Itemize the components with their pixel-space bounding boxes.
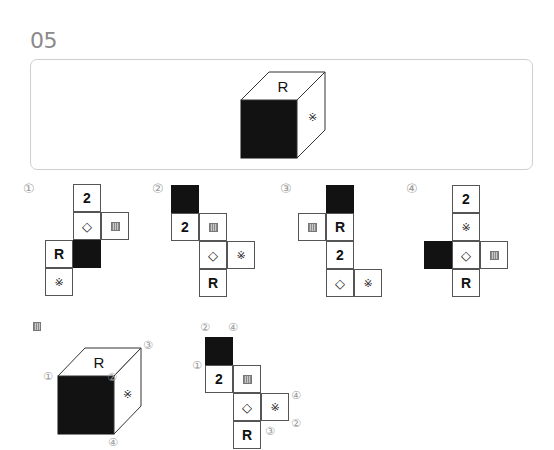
net-cell: ◇ [233,393,261,421]
cube-front-face [58,376,114,434]
cube-right-symbol: ※ [308,111,317,123]
cube-top-label: R [94,354,105,371]
net-cell [199,213,227,241]
option-3-net[interactable]: R 2 ◇ ※ [299,186,383,298]
net-vertex-top-left: ② [200,322,210,333]
net-vertex-right-upper: ④ [291,390,301,401]
vertex-label-2: ② [107,372,117,383]
net-cell-black [205,337,233,365]
net-cell [101,212,129,240]
option-2-label[interactable]: ② [152,182,164,195]
option-4-net[interactable]: 2 ※ ◇ R [425,186,509,298]
net-cell [233,365,261,393]
net-cell: 2 [205,365,233,393]
striped-square-icon [209,223,218,232]
net-cell: ※ [45,268,73,296]
question-number: 05 [30,28,57,53]
net-cell-black [424,241,452,269]
net-vertex-left: ① [192,360,202,371]
striped-square-icon [308,223,317,232]
net-cell: ※ [354,269,382,297]
cube-right-symbol: ※ [123,388,132,400]
vertex-label-3: ③ [143,340,153,351]
net-vertex-top-right: ④ [228,322,238,333]
net-cell: R [452,269,480,297]
net-cell-black [73,240,101,268]
vertex-label-4: ④ [108,437,118,448]
question-cube: R ※ [230,66,340,166]
cube-top-label: R [278,78,289,95]
net-cell-black [326,185,354,213]
net-cell: ◇ [452,241,480,269]
vertex-label-1: ① [43,371,53,382]
solution-net: 2 ◇ ※ R [206,338,290,450]
net-cell: R [233,421,261,449]
option-3-label[interactable]: ③ [280,182,292,195]
solution-marker-icon [33,322,41,331]
striped-square-icon [111,222,120,231]
net-cell: 2 [73,184,101,212]
option-4-label[interactable]: ④ [406,182,418,195]
option-1-label[interactable]: ① [23,182,35,195]
net-cell: R [199,269,227,297]
net-vertex-right-lower: ② [291,418,301,429]
net-cell: 2 [171,213,199,241]
net-cell-black [171,185,199,213]
net-cell: ◇ [73,212,101,240]
net-cell: 2 [326,241,354,269]
cube-front-face [241,100,297,158]
option-2-net[interactable]: 2 ◇ ※ R [172,186,256,298]
striped-square-icon [243,375,252,384]
net-cell: ◇ [326,269,354,297]
option-1-net[interactable]: 2 ◇ R ※ [46,185,130,297]
solution-marker [33,322,41,331]
net-cell: ※ [227,241,255,269]
net-cell: ◇ [199,241,227,269]
net-cell: ※ [261,393,289,421]
net-cell: ※ [452,213,480,241]
striped-square-icon [490,251,499,260]
net-cell: R [326,213,354,241]
net-cell: 2 [452,185,480,213]
solution-cube: R ※ [40,338,165,444]
net-cell: R [45,240,73,268]
net-cell [480,241,508,269]
net-cell [298,213,326,241]
net-vertex-bottom: ③ [265,426,275,437]
